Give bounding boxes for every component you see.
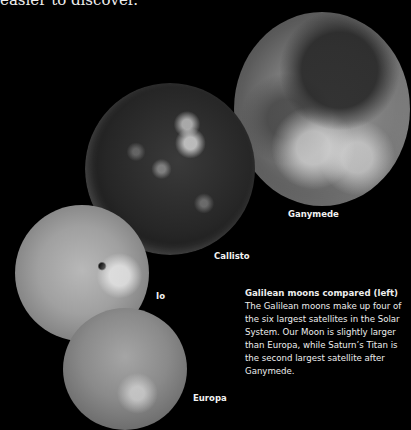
caption-heading: Galilean moons compared (left)	[245, 287, 411, 300]
europa-label: Europa	[193, 393, 227, 403]
ganymede-label: Ganymede	[288, 209, 339, 219]
body-text-fragment: easier to discover.	[0, 0, 138, 9]
europa-image	[63, 308, 187, 430]
ganymede-image	[234, 12, 410, 206]
caption-body: The Galilean moons make up four of the s…	[245, 301, 401, 376]
callisto-label: Callisto	[214, 251, 250, 261]
io-label: Io	[156, 291, 165, 301]
figure-caption: Galilean moons compared (left) The Galil…	[245, 287, 411, 378]
